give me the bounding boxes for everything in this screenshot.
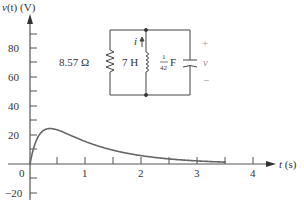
capacitor-unit: F [170, 56, 176, 68]
x-axis-arrow-icon [266, 161, 276, 167]
x-tick-label-2: 2 [138, 167, 144, 179]
x-tick-label-3: 3 [194, 167, 200, 179]
inductor-icon [146, 52, 149, 72]
circuit-diagram [106, 28, 197, 96]
y-tick-label-80: 80 [8, 42, 20, 54]
inductor-label: 7 H [122, 56, 138, 68]
y-tick-label-neg20: −20 [5, 187, 23, 199]
origin-label: 0 [19, 167, 25, 179]
x-axis-label: t (s) [279, 158, 297, 171]
y-tick-label-20: 20 [8, 129, 20, 141]
chart: v(t) (V) 80 60 40 20 0 −20 1 2 3 4 t (s)… [0, 0, 304, 204]
minus-sign: − [203, 74, 209, 86]
y-ticks [30, 34, 37, 193]
y-tick-label-40: 40 [8, 100, 20, 112]
current-arrow-icon [140, 37, 144, 41]
plus-sign: + [202, 37, 208, 49]
voltage-label: v [203, 56, 208, 68]
y-axis-label: v(t) (V) [2, 1, 36, 14]
resistor-label: 8.57 Ω [59, 56, 89, 68]
capacitor-den: 42 [160, 64, 168, 72]
current-label: i [134, 35, 137, 47]
y-tick-label-60: 60 [8, 71, 20, 83]
capacitor-num: 1 [162, 53, 166, 61]
x-tick-label-1: 1 [82, 167, 88, 179]
x-tick-label-4: 4 [250, 167, 256, 179]
y-axis-arrow-icon [27, 14, 33, 24]
resistor-icon [106, 50, 114, 75]
